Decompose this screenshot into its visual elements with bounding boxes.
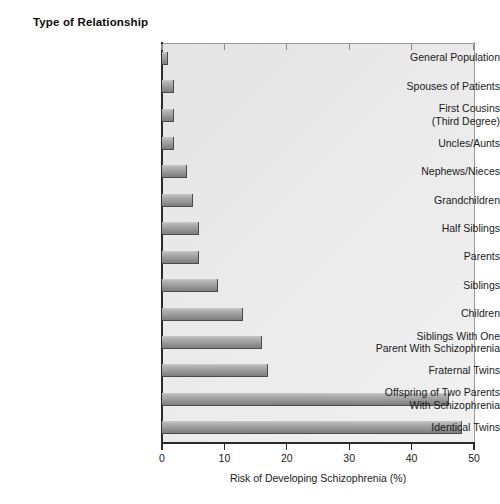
x-axis-title: Risk of Developing Schizophrenia (%) <box>162 472 474 484</box>
y-tick-label: Grandchildren <box>342 194 500 207</box>
y-tick-label: Parents <box>342 250 500 263</box>
x-tick-mark-top <box>473 44 474 50</box>
x-tick-mark <box>161 444 162 450</box>
chart-figure: Type of Relationship General PopulationS… <box>0 0 500 504</box>
bar <box>162 165 187 178</box>
x-tick-mark <box>286 444 287 450</box>
y-tick-label: Spouses of Patients <box>342 80 500 93</box>
bar <box>162 52 168 65</box>
x-tick-mark-top <box>411 44 412 50</box>
y-tick-label: Half Siblings <box>342 222 500 235</box>
x-tick-mark-top <box>161 44 162 50</box>
bar <box>162 308 243 321</box>
y-tick-label: General Population <box>342 51 500 64</box>
axis-spine-left <box>161 42 163 444</box>
y-tick-label: Siblings <box>342 279 500 292</box>
x-tick-label: 50 <box>468 452 480 464</box>
y-tick-label: Children <box>342 307 500 320</box>
x-tick-mark-top <box>224 44 225 50</box>
x-tick-mark <box>411 444 412 450</box>
bar <box>162 80 174 93</box>
bar <box>162 137 174 150</box>
x-tick-mark-top <box>286 44 287 50</box>
x-tick-mark <box>224 444 225 450</box>
bar <box>162 336 262 349</box>
bar <box>162 279 218 292</box>
axis-spine-top <box>161 43 475 44</box>
y-tick-label: Nephews/Nieces <box>342 165 500 178</box>
x-tick-label: 30 <box>343 452 355 464</box>
y-tick-label: Fraternal Twins <box>342 364 500 377</box>
bar <box>162 364 268 377</box>
y-tick-label: Identical Twins <box>342 421 500 434</box>
x-tick-mark-top <box>349 44 350 50</box>
chart-title: Type of Relationship <box>33 16 148 28</box>
y-tick-label: Siblings With One Parent With Schizophre… <box>342 330 500 355</box>
x-tick-mark <box>473 444 474 450</box>
bar <box>162 251 199 264</box>
x-tick-label: 20 <box>281 452 293 464</box>
bar <box>162 194 193 207</box>
bar <box>162 109 174 122</box>
x-tick-mark <box>349 444 350 450</box>
axis-spine-bottom <box>161 442 475 444</box>
x-tick-label: 0 <box>159 452 165 464</box>
y-tick-label: Offspring of Two Parents With Schizophre… <box>342 386 500 411</box>
x-tick-label: 40 <box>406 452 418 464</box>
bar <box>162 222 199 235</box>
x-tick-label: 10 <box>219 452 231 464</box>
y-tick-label: First Cousins (Third Degree) <box>342 102 500 127</box>
y-tick-label: Uncles/Aunts <box>342 137 500 150</box>
